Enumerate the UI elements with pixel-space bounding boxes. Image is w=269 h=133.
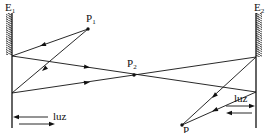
label-luz-right: luz [234, 92, 248, 104]
arrow-icon [84, 80, 91, 85]
ray-p1-to-e1-upper [12, 29, 88, 56]
label-e2: E2 [254, 1, 265, 15]
point-p1 [86, 27, 89, 30]
light-rays [12, 29, 256, 125]
label-e1: E1 [5, 1, 16, 15]
mirror-e1 [6, 13, 12, 128]
light-indicator-left: luz [16, 110, 67, 124]
point-p2 [132, 73, 135, 76]
label-luz-left: luz [53, 110, 67, 122]
label-p2: P2 [127, 57, 137, 71]
mirror-e2-hatching [256, 13, 262, 57]
label-p1: P1 [86, 12, 96, 26]
arrow-icon [39, 42, 46, 48]
mirror-e1-hatching [6, 13, 12, 55]
ray-e2-upper-to-p [182, 57, 256, 125]
arrow-icon [211, 107, 218, 113]
two-mirror-ray-diagram: E1 E2 P1 P2 P luz luz [0, 0, 269, 133]
arrow-icon [41, 65, 48, 72]
mirror-e2 [256, 13, 262, 128]
label-p: P [183, 124, 189, 133]
ray-arrowheads [39, 42, 218, 114]
